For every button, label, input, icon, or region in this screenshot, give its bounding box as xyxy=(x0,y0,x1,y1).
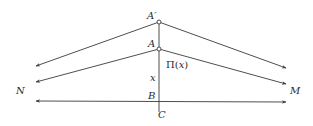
angle-of-parallelism-diagram: A′ A Π(x) x B C N M xyxy=(0,0,313,126)
label-b: B xyxy=(147,90,155,101)
label-c: C xyxy=(158,109,166,120)
line-nm xyxy=(36,101,286,102)
label-pi-prefix: Π( xyxy=(166,59,179,70)
label-m: M xyxy=(289,85,301,96)
label-pi-x: Π(x) xyxy=(166,59,188,70)
label-x: x xyxy=(150,72,156,83)
point-a xyxy=(157,47,161,51)
ray-aprime-left xyxy=(36,22,159,66)
label-n: N xyxy=(15,85,26,96)
label-pi-suffix: ) xyxy=(184,59,188,70)
point-aprime xyxy=(157,20,161,24)
label-aprime: A′ xyxy=(146,10,157,21)
diagram-canvas: A′ A Π(x) x B C N M xyxy=(0,0,313,126)
label-a: A xyxy=(147,38,155,49)
ray-a-left xyxy=(36,49,159,82)
